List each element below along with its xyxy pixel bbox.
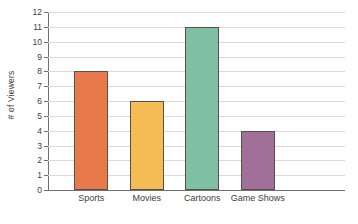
bar-chart: # of Viewers 0123456789101112 SportsMovi… <box>0 0 358 224</box>
x-axis-label: Game Shows <box>231 193 285 203</box>
y-tick-label: 2 <box>2 155 42 165</box>
y-tick-label: 11 <box>2 22 42 32</box>
y-axis-ticks: 0123456789101112 <box>0 12 42 191</box>
y-tick-label: 6 <box>2 96 42 106</box>
gridline <box>48 190 345 191</box>
bar <box>241 131 275 190</box>
gridline <box>48 12 345 13</box>
y-tick-label: 1 <box>2 170 42 180</box>
y-tick-label: 8 <box>2 66 42 76</box>
y-tick-label: 5 <box>2 111 42 121</box>
y-tick-label: 3 <box>2 141 42 151</box>
y-tick-label: 12 <box>2 7 42 17</box>
y-tick-label: 10 <box>2 37 42 47</box>
y-tick-label: 4 <box>2 126 42 136</box>
y-tick-label: 0 <box>2 185 42 195</box>
x-axis-labels: SportsMoviesCartoonsGame Shows <box>48 193 345 213</box>
y-tick-label: 9 <box>2 52 42 62</box>
y-tick-label: 7 <box>2 81 42 91</box>
bar <box>130 101 164 190</box>
x-axis-label: Cartoons <box>184 193 221 203</box>
plot-area <box>48 12 345 190</box>
x-axis-label: Movies <box>133 193 162 203</box>
bar <box>74 71 108 190</box>
bar <box>185 27 219 190</box>
x-axis-label: Sports <box>78 193 104 203</box>
